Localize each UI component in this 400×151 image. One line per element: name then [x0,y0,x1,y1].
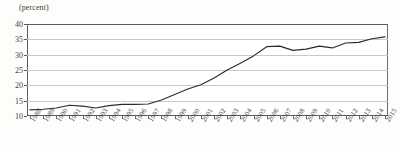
line-series-path [30,37,385,110]
y-tick-label: 40 [3,20,23,29]
x-axis-labels: 1988198919901991199219931994199519961997… [27,117,388,151]
y-tick-label: 15 [3,97,23,106]
line-series-layer [27,24,388,116]
scan-bleed-through [258,2,378,9]
y-axis-unit-label: (percent) [19,3,49,12]
y-tick-label: 25 [3,66,23,75]
y-tick-label: 35 [3,35,23,44]
y-tick-label: 30 [3,51,23,60]
y-tick-label: 10 [3,112,23,121]
plot-area [27,24,388,116]
y-tick-label: 20 [3,81,23,90]
chart-figure: (percent) 198819891990199119921993199419… [0,0,400,151]
